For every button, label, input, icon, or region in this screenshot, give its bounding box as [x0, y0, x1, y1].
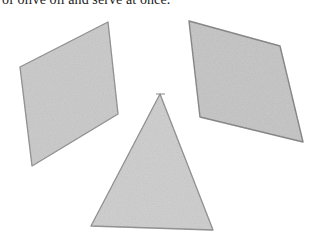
right-quadrilateral	[189, 21, 303, 142]
shapes-illustration	[0, 0, 312, 234]
left-quadrilateral	[20, 22, 118, 166]
